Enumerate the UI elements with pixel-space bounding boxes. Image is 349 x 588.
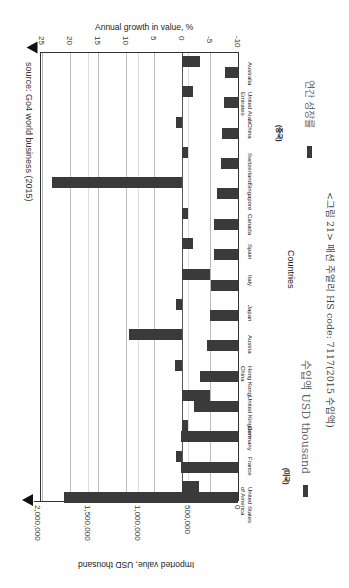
growth-gridline: [154, 52, 155, 501]
import-tick-label: 500,000: [183, 505, 192, 534]
growth-tick-label: 25: [37, 36, 46, 45]
import-bar: [64, 492, 238, 503]
country-label: Italy: [246, 275, 253, 286]
growth-bar: [182, 481, 199, 492]
growth-bar: [129, 329, 182, 340]
legend-swatch-import: [303, 485, 308, 497]
growth-tick-label: 5: [149, 36, 158, 40]
growth-bar: [182, 208, 188, 219]
country-label: Japan: [246, 305, 253, 321]
legend-label-growth: 연간 성장률: [303, 80, 318, 128]
countries-axis-title: Countries: [286, 250, 296, 289]
country-label: Germany: [246, 426, 253, 451]
growth-bar: [182, 147, 188, 158]
country-label: Canada: [246, 214, 253, 235]
growth-axis-line: [40, 52, 238, 53]
import-bar: [222, 128, 238, 139]
chart-left-border: [40, 52, 41, 501]
growth-axis-arrow-icon: [27, 42, 38, 54]
import-tick-label: 2,000,000: [33, 505, 42, 541]
growth-bar: [182, 420, 188, 431]
import-bar: [210, 310, 238, 321]
growth-tick-label: -5: [205, 36, 214, 43]
import-bar: [224, 97, 238, 108]
growth-tick-label: -10: [233, 36, 242, 48]
growth-bar: [52, 177, 182, 188]
source-note: source: Go4 world business (2015): [24, 62, 34, 202]
growth-gridline: [98, 52, 99, 501]
import-axis-arrow-icon: [22, 494, 33, 506]
import-tick-label: 1,500,000: [83, 505, 92, 541]
import-gridline: [138, 52, 139, 501]
country-label: France: [246, 457, 253, 476]
growth-tick-label: 20: [65, 36, 74, 45]
growth-bar: [176, 451, 182, 462]
growth-bar: [182, 238, 193, 249]
import-axis-title: Imported value, USD thousand: [78, 560, 194, 570]
figure-caption: <그림 21> 패션 주얼리 HS code: 7117(2015 수입액): [324, 192, 338, 428]
country-label: United Arab Emirates: [239, 92, 253, 123]
growth-gridline: [126, 52, 127, 501]
growth-bar: [182, 56, 200, 67]
import-bar: [200, 371, 238, 382]
country-label: Switzerland: [246, 153, 253, 184]
import-bar: [181, 462, 238, 473]
growth-axis-title: Annual growth in value, %: [95, 22, 193, 32]
usa-note: (미국): [282, 468, 292, 485]
china-note: (중국): [275, 125, 285, 142]
country-label: Spain: [246, 244, 253, 259]
growth-gridline: [42, 52, 43, 501]
growth-bar: [175, 360, 182, 371]
growth-bar: [182, 86, 193, 97]
country-label: Australia: [246, 62, 253, 85]
import-bar: [221, 158, 238, 169]
import-gridline: [88, 52, 89, 501]
import-bar: [181, 431, 238, 442]
import-bar: [207, 340, 238, 351]
growth-bar: [182, 269, 210, 280]
country-label: Hong Kong, China: [239, 366, 253, 398]
country-label: China: [246, 123, 253, 139]
import-bar: [214, 219, 238, 230]
growth-tick-label: 15: [93, 36, 102, 45]
growth-bar: [182, 390, 210, 401]
growth-tick-label: 0: [177, 36, 186, 40]
growth-bar: [176, 299, 182, 310]
growth-tick-label: 10: [121, 36, 130, 45]
growth-bar: [176, 117, 182, 128]
import-bar: [217, 188, 238, 199]
legend-label-import: 수입액 USD thousand: [299, 360, 315, 474]
country-label: Austria: [246, 335, 253, 354]
legend-swatch-growth: [307, 146, 312, 158]
import-bar: [194, 401, 238, 412]
import-bar: [214, 249, 238, 260]
import-tick-label: 1,000,000: [133, 505, 142, 541]
growth-gridline: [70, 52, 71, 501]
country-label: Singapore: [246, 183, 253, 210]
import-bar: [211, 280, 238, 291]
country-label: United States of America: [239, 487, 253, 523]
import-bar: [225, 67, 238, 78]
